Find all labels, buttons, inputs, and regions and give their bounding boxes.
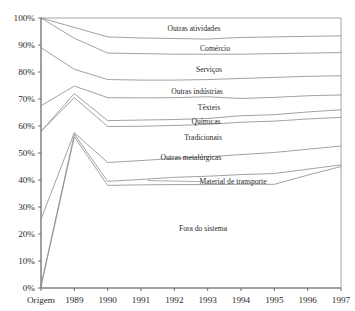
band-label-qu-micas: Químicas <box>191 117 220 126</box>
y-tick-label: 20% <box>18 229 35 239</box>
y-tick-label: 30% <box>18 202 35 212</box>
x-tick-label: 1992 <box>165 295 184 305</box>
y-tick-label: 100% <box>14 13 36 23</box>
band-label-fora-do-sistema: Fora do sistema <box>179 224 228 233</box>
stacked-area-chart: 0%10%20%30%40%50%60%70%80%90%100%Origem1… <box>0 0 355 311</box>
series-boundary-outras-metal-rgicas <box>41 133 341 219</box>
y-tick-label: 50% <box>18 148 35 158</box>
x-tick-label: 1990 <box>98 295 117 305</box>
series-boundary-outras-ind-strias <box>41 48 341 80</box>
y-tick-label: 90% <box>18 40 35 50</box>
band-label-outras-atividades: Outras atividades <box>168 24 221 33</box>
y-tick-label: 0% <box>23 283 36 293</box>
x-tick-label: 1994 <box>232 295 251 305</box>
band-label-t-xteis: Têxteis <box>198 103 220 112</box>
material-de-transporte-leader <box>148 181 202 182</box>
band-label-servi-os: Serviços <box>196 65 222 74</box>
x-tick-label: 1995 <box>265 295 284 305</box>
band-label-com-rcio: Comércio <box>200 44 230 53</box>
y-tick-label: 40% <box>18 175 35 185</box>
chart-canvas: 0%10%20%30%40%50%60%70%80%90%100%Origem1… <box>0 0 355 311</box>
x-tick-label: Origem <box>27 295 55 305</box>
band-label-material-de-transporte: Material de transporte <box>199 177 267 186</box>
band-label-outras-ind-strias: Outras indústrias <box>171 87 223 96</box>
y-tick-label: 10% <box>18 256 35 266</box>
x-tick-label: 1991 <box>132 295 151 305</box>
x-tick-label: 1996 <box>298 295 317 305</box>
x-tick-label: 1989 <box>65 295 84 305</box>
y-tick-label: 80% <box>18 67 35 77</box>
y-tick-label: 60% <box>18 121 35 131</box>
y-tick-label: 70% <box>18 94 35 104</box>
band-label-outras-metal-rgicas: Outras metalúrgicas <box>161 153 222 162</box>
band-label-tradicionais: Tradicionais <box>184 133 222 142</box>
x-tick-label: 1993 <box>198 295 217 305</box>
x-tick-label: 1997 <box>332 295 351 305</box>
